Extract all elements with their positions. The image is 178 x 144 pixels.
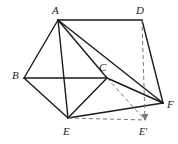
vertex-label-d: D xyxy=(136,5,144,16)
geometry-figure: ADBCEFE' xyxy=(0,0,178,144)
edge-B-E xyxy=(24,78,68,118)
edge-A-E xyxy=(58,20,68,118)
geometry-canvas xyxy=(0,0,178,144)
edge-E-F xyxy=(68,103,163,118)
edge-D-Eprime xyxy=(142,20,145,120)
arrowhead-at-Eprime xyxy=(142,114,149,121)
arrowhead-group xyxy=(142,114,149,121)
edge-D-F xyxy=(142,20,163,103)
dashed-edge-group xyxy=(68,20,145,120)
vertex-label-e: E xyxy=(63,126,70,137)
vertex-label-b: B xyxy=(12,70,19,81)
edge-C-E xyxy=(68,78,107,118)
edge-E-Eprime xyxy=(68,118,145,120)
vertex-label-a: A xyxy=(52,5,59,16)
vertex-label-ep: E' xyxy=(139,126,147,137)
edge-A-B xyxy=(24,20,58,78)
vertex-label-f: F xyxy=(167,99,174,110)
edge-A-F xyxy=(58,20,163,103)
vertex-label-c: C xyxy=(99,62,106,73)
